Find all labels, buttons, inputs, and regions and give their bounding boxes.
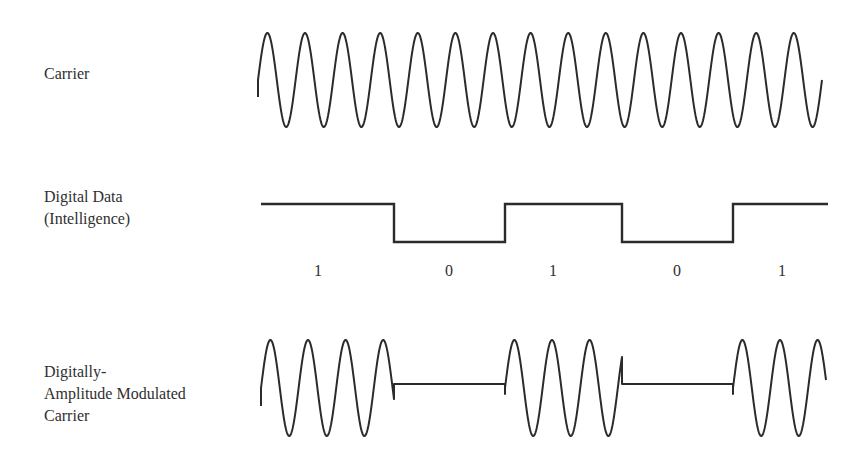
modulated-carrier-waveform [261,340,826,436]
waveform-diagram [0,0,862,466]
carrier-waveform [258,33,822,127]
digital-data-waveform [261,204,828,242]
